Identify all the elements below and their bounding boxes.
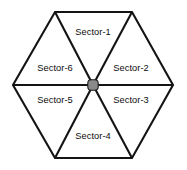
hexagon-sector-diagram: Sector-1 Sector-2 Sector-3 Sector-4 Sect…	[0, 0, 187, 170]
sector-6-label: Sector-6	[37, 63, 73, 73]
hexagon-diagram-canvas: Sector-1 Sector-2 Sector-3 Sector-4 Sect…	[0, 0, 187, 170]
sector-2-label: Sector-2	[113, 63, 149, 73]
sector-1-label: Sector-1	[75, 27, 111, 37]
center-hub-icon	[88, 80, 98, 90]
sector-5-label: Sector-5	[37, 95, 73, 105]
sector-4-label: Sector-4	[75, 131, 111, 141]
sector-3-label: Sector-3	[113, 95, 149, 105]
